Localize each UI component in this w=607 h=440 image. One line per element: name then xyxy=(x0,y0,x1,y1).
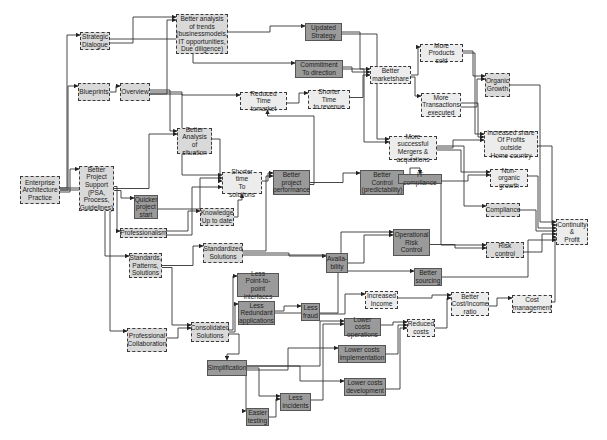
connector-riskcontrol-to-continuity xyxy=(524,234,556,252)
connector-quicker-to-shortersol xyxy=(158,178,222,209)
node-reducedcosts[interactable]: Reduced costs xyxy=(407,319,435,337)
node-standards[interactable]: Standards, Patterns, Solutions xyxy=(129,253,162,278)
node-label: Increased share Of Profits outside Home … xyxy=(487,129,535,159)
connector-projsupport-to-analysis xyxy=(114,134,177,189)
node-sourcing[interactable]: Better sourcing xyxy=(414,268,442,286)
connector-standardized-to-availability xyxy=(243,253,326,256)
node-label: Knowledge Up to date xyxy=(201,209,234,224)
node-label: Better marketshare xyxy=(372,67,409,82)
node-label: Easier testing xyxy=(248,409,267,424)
node-analysis[interactable]: Better Analysis of situation xyxy=(177,128,212,154)
connector-costincome-to-costmgmt xyxy=(489,298,512,306)
node-professionalism[interactable]: Professionalism xyxy=(120,228,167,238)
node-label: Reduced Time tomarket xyxy=(243,90,284,113)
node-label: Shorter time To solutions xyxy=(225,168,259,198)
node-label: More Products sold xyxy=(423,42,460,65)
node-compliance[interactable]: Compliance xyxy=(486,203,520,217)
connector-transactions-to-shareprofits xyxy=(461,103,484,137)
node-shareprofits[interactable]: Increased share Of Profits outside Home … xyxy=(484,131,538,157)
node-label: Overview xyxy=(121,88,148,96)
node-marketshare[interactable]: Better marketshare xyxy=(370,66,411,84)
connector-simplification-to-easiertesting xyxy=(246,370,247,411)
node-standardized[interactable]: Standardized Solutions xyxy=(203,243,243,263)
node-commit[interactable]: Commitment To direction xyxy=(295,60,343,78)
node-label: Better Analysis of situation xyxy=(180,126,209,156)
connector-shorterrev-to-marketshare xyxy=(350,75,370,98)
node-consolidated[interactable]: Consolidated Solutions xyxy=(191,322,229,342)
node-lessfraud[interactable]: Less fraud xyxy=(301,303,320,321)
node-oprisk[interactable]: Operational Risk Control xyxy=(393,229,430,256)
node-simplification[interactable]: Simplification xyxy=(207,360,247,376)
node-p2p[interactable]: Less Point-to-point interfaces xyxy=(237,273,279,297)
node-blueprints[interactable]: Blueprints xyxy=(78,83,110,101)
node-overview[interactable]: Overview xyxy=(120,83,150,101)
connector-eap-to-blueprints xyxy=(60,86,78,190)
node-costincome[interactable]: Better Cost/Income ratio xyxy=(451,292,489,316)
connector-lessfraud-to-increasedinc xyxy=(320,294,365,314)
node-collab[interactable]: Professional Collaboration xyxy=(127,328,167,352)
node-label: Cost management xyxy=(513,296,552,311)
connector-increasedinc-to-costincome xyxy=(398,295,451,298)
connector-products-to-organic xyxy=(463,51,485,76)
node-label: Blueprints xyxy=(79,88,108,96)
node-label: Better Project Support (PSA, Process, Gu… xyxy=(80,166,113,212)
node-label: Enterprise Architecture Practice xyxy=(22,179,57,202)
connector-collab-to-consolidated xyxy=(167,328,191,338)
node-trends[interactable]: Better analysis of trends (businessmodel… xyxy=(176,14,228,54)
node-label: Non-organic growth xyxy=(493,167,525,190)
connector-marketshare-to-products xyxy=(411,47,420,75)
node-shorterrev[interactable]: Shorter Time to revenue xyxy=(308,90,350,109)
node-label: Standards, Patterns, Solutions xyxy=(130,254,162,277)
connector-commit-to-marketshare xyxy=(343,67,370,72)
node-label: IT compliance xyxy=(401,171,439,186)
connector-simplification-to-lessincidents xyxy=(247,368,280,396)
connector-simplification-to-lowerimpl xyxy=(247,348,338,370)
connector-simplification-to-lowerdev xyxy=(247,366,344,381)
connector-products-to-shareprofits xyxy=(463,53,484,134)
node-lowerimpl[interactable]: Lower costs implementation xyxy=(338,345,386,363)
node-label: Better project performance xyxy=(273,171,310,194)
node-products[interactable]: More Products sold xyxy=(420,44,463,62)
node-riskcontrol[interactable]: Risk control xyxy=(486,242,524,258)
node-projsupport[interactable]: Better Project Support (PSA, Process, Gu… xyxy=(79,166,114,211)
node-lowerdev[interactable]: Lower costs development xyxy=(344,378,386,396)
node-label: Less Point-to-point interfaces xyxy=(240,270,276,300)
connector-consolidated-to-p2p xyxy=(229,276,237,330)
node-lowerops[interactable]: Lower costs operations xyxy=(344,318,381,336)
connector-overview-to-reducedtm xyxy=(150,92,240,95)
node-quicker[interactable]: Quicker project start xyxy=(134,195,158,219)
connector-projsupport-to-professionalism xyxy=(114,187,120,232)
node-label: Consolidated Solutions xyxy=(191,324,230,339)
node-reducedtm[interactable]: Reduced Time tomarket xyxy=(240,92,287,110)
node-redundant[interactable]: Less Redundant applications xyxy=(238,301,275,325)
node-label: Better analysis of trends (businessmodel… xyxy=(176,15,227,53)
node-availability[interactable]: Availa- bility xyxy=(326,253,348,273)
node-transactions[interactable]: More Transactions executed xyxy=(421,93,461,117)
node-knowledge[interactable]: Knowledge Up to date xyxy=(200,208,234,226)
node-mergers[interactable]: More successful Mergers & acquistions xyxy=(389,136,437,160)
connector-lowerdev-to-reducedcosts xyxy=(386,328,407,389)
node-eap[interactable]: Enterprise Architecture Practice xyxy=(20,176,60,204)
node-easiertesting[interactable]: Easier testing xyxy=(246,408,269,426)
node-label: Less fraud xyxy=(303,304,318,319)
node-projperf[interactable]: Better project performance xyxy=(273,170,310,195)
node-nonorganic[interactable]: Non-organic growth xyxy=(490,169,528,187)
connector-standards-to-standardized xyxy=(162,246,203,266)
connector-shareprofits-to-continuity xyxy=(538,146,556,225)
node-lessincidents[interactable]: Less incidents xyxy=(280,393,311,411)
node-label: Lower costs implementation xyxy=(340,346,385,361)
connector-standards-to-consolidated xyxy=(162,268,191,326)
node-updated[interactable]: Updated Strategy xyxy=(305,23,342,41)
node-strategic[interactable]: Strategic Dialogue xyxy=(80,32,110,50)
node-increasedinc[interactable]: Increased Income xyxy=(365,291,398,309)
node-organic[interactable]: Organic Growth xyxy=(485,73,510,97)
node-continuity[interactable]: Continuity & Profit xyxy=(556,219,588,245)
connector-reducedcosts-to-costincome xyxy=(435,298,451,328)
connector-mergers-to-shareprofits xyxy=(437,140,484,148)
node-label: Increased Income xyxy=(367,292,396,307)
connector-easiertesting-to-lessincidents xyxy=(269,399,280,417)
node-label: Shorter Time to revenue xyxy=(311,88,347,111)
node-shortersol[interactable]: Shorter time To solutions xyxy=(222,172,262,194)
node-costmgmt[interactable]: Cost management xyxy=(512,295,552,313)
node-itcomp[interactable]: IT compliance xyxy=(398,174,442,184)
